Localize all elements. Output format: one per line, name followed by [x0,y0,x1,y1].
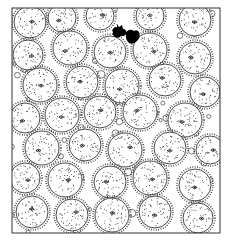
illustration-stage: Pen-and-ink hidden-object illustration o… [0,0,232,245]
pufferfish-illustration [0,0,232,245]
